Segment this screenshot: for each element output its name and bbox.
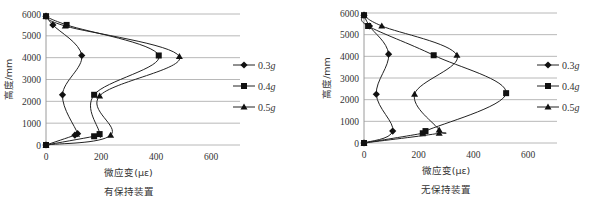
legend: 0.3g0.4g0.5g	[537, 60, 580, 113]
chart-caption: 无保持装置	[421, 184, 471, 195]
x-tick-label: 400	[466, 150, 481, 160]
legend-label: 0.5g	[562, 102, 580, 113]
x-tick-label: 600	[204, 152, 219, 162]
figure: 01000200030004000500060000200400600微应变(μ…	[0, 0, 614, 203]
triangle-marker	[107, 132, 114, 138]
series-0_5g	[43, 13, 183, 148]
series-0_4g	[43, 13, 162, 148]
legend-label: 0.3g	[562, 60, 580, 71]
chart-with-retainer: 01000200030004000500060000200400600微应变(μ…	[3, 10, 276, 198]
x-tick-label: 200	[94, 152, 109, 162]
y-tick-label: 0	[354, 139, 359, 149]
legend-label: 0.4g	[258, 81, 276, 92]
x-tick-label: 200	[412, 150, 427, 160]
y-tick-label: 3000	[340, 74, 359, 84]
y-axis-label: 高度/mm	[3, 59, 14, 101]
y-axis-label: 高度/mm	[321, 57, 332, 99]
y-tick-label: 1000	[340, 117, 359, 127]
legend-label: 0.3g	[258, 60, 276, 71]
series-0_3g	[42, 13, 85, 149]
diamond-marker	[240, 61, 247, 68]
chart-without-retainer: 01000200030004000500060000200400600微应变(μ…	[321, 9, 580, 196]
chart-caption: 有保持装置	[104, 186, 154, 197]
series-0_3g	[360, 12, 396, 147]
legend-label: 0.4g	[562, 81, 580, 92]
x-tick-label: 0	[362, 150, 367, 160]
y-tick-label: 5000	[22, 31, 41, 41]
square-marker	[91, 133, 97, 139]
diamond-marker	[373, 91, 380, 98]
diamond-marker	[389, 127, 396, 134]
y-tick-label: 2000	[340, 95, 359, 105]
y-tick-label: 6000	[22, 10, 41, 20]
square-marker	[545, 83, 551, 89]
square-marker	[97, 131, 103, 137]
series-0_5g	[361, 12, 461, 146]
triangle-marker	[378, 23, 385, 29]
square-marker	[365, 23, 371, 29]
legend-label: 0.5g	[258, 102, 276, 113]
y-tick-label: 5000	[340, 30, 359, 40]
square-marker	[423, 128, 429, 134]
y-tick-label: 1000	[22, 119, 41, 129]
y-tick-label: 4000	[22, 53, 41, 63]
square-marker	[431, 52, 437, 58]
x-axis-label: 微应变(με)	[104, 167, 153, 178]
y-tick-label: 3000	[22, 75, 41, 85]
y-tick-label: 0	[36, 141, 41, 151]
y-tick-label: 6000	[340, 9, 359, 19]
y-tick-label: 4000	[340, 52, 359, 62]
diamond-marker	[59, 91, 66, 98]
diamond-marker	[544, 61, 551, 68]
x-axis-label: 微应变(με)	[422, 165, 471, 176]
legend: 0.3g0.4g0.5g	[233, 60, 276, 113]
x-tick-label: 600	[521, 150, 536, 160]
square-marker	[241, 83, 247, 89]
triangle-marker	[411, 91, 418, 97]
square-marker	[503, 90, 509, 96]
x-tick-label: 0	[44, 152, 49, 162]
square-marker	[156, 52, 162, 58]
square-marker	[91, 92, 97, 98]
x-tick-label: 400	[149, 152, 164, 162]
y-tick-label: 2000	[22, 97, 41, 107]
